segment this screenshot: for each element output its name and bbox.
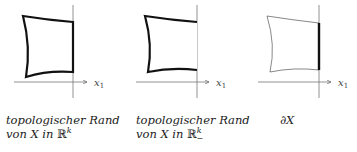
caption-2: topologischer Rand von X in ℝk− xyxy=(136,113,250,143)
panel-3: x1 xyxy=(258,5,348,98)
caption-3: ∂X xyxy=(280,113,294,127)
set-x-region xyxy=(267,16,319,72)
panel-2: x1 xyxy=(136,5,226,98)
caption-line-2: von X in ℝk xyxy=(6,127,120,141)
x1-axis-label: x1 xyxy=(338,77,348,90)
panel-1: x1 xyxy=(14,5,104,98)
x1-axis-label: x1 xyxy=(216,77,226,90)
x1-axis-label: x1 xyxy=(94,77,104,90)
caption-line-1: topologischer Rand xyxy=(136,113,250,127)
set-x-region xyxy=(23,16,73,77)
caption-line-1: topologischer Rand xyxy=(6,113,120,127)
caption-line-1: ∂X xyxy=(280,113,294,127)
set-x-region xyxy=(145,16,197,72)
caption-1: topologischer Rand von X in ℝk xyxy=(6,113,120,141)
caption-line-2: von X in ℝk− xyxy=(136,127,250,143)
